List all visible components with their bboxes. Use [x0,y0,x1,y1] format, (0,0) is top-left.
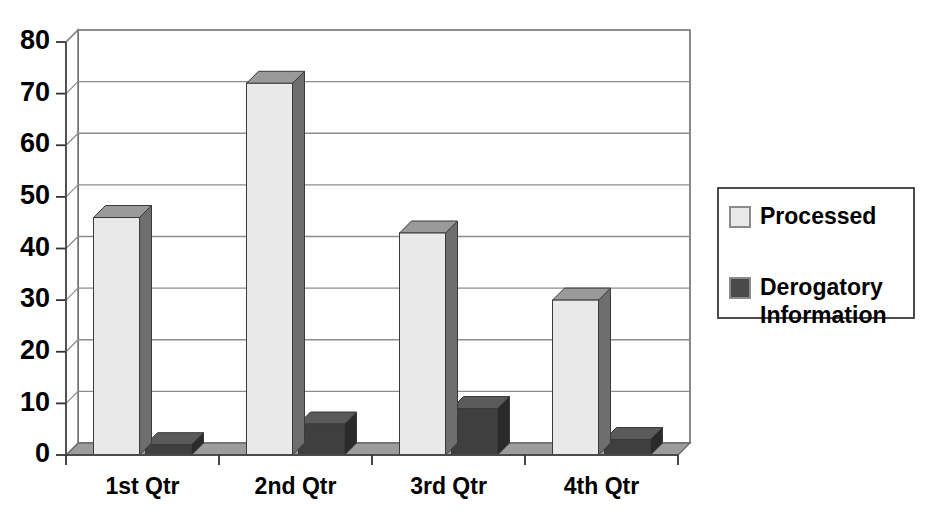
bar-processed-1 [247,71,305,455]
bar-chart: 80706050403020100 1st Qtr2nd Qtr3rd Qtr4… [0,0,928,526]
bar-derogatory-0 [146,433,204,455]
bar-processed-3-side [599,288,611,455]
bar-derogatory-1-front [299,424,345,455]
x-category-label: 3rd Qtr [410,473,487,499]
x-category-label: 2nd Qtr [255,473,337,499]
x-category-label: 4th Qtr [564,473,639,499]
y-tick-label: 0 [35,438,50,468]
bar-derogatory-2 [452,397,510,455]
legend-swatch-derogatory [730,278,750,298]
x-axis: 1st Qtr2nd Qtr3rd Qtr4th Qtr [66,455,678,499]
y-tick-label: 80 [20,25,50,55]
bar-processed-2-front [400,233,446,455]
bar-derogatory-0-front [146,445,192,455]
legend-label-derogatory: Derogatory [760,274,883,300]
y-tick-label: 30 [20,283,50,313]
y-tick-label: 10 [20,387,50,417]
bar-derogatory-2-front [452,409,498,455]
bar-derogatory-3-front [605,440,651,455]
bar-processed-1-side [293,71,305,455]
bar-processed-2 [400,221,458,455]
legend-label-derogatory-line2: Information [760,302,887,328]
bar-derogatory-1 [299,412,357,455]
y-tick-label: 20 [20,335,50,365]
chart-canvas: 80706050403020100 1st Qtr2nd Qtr3rd Qtr4… [0,0,928,526]
y-tick-label: 60 [20,128,50,158]
y-tick-label: 40 [20,232,50,262]
x-category-label: 1st Qtr [105,473,179,499]
bar-processed-0-side [140,206,152,455]
legend: Processed Derogatory Information [718,188,914,328]
bar-derogatory-3 [605,428,663,455]
y-tick-label: 50 [20,180,50,210]
bar-processed-0-front [94,218,140,455]
bar-processed-3 [553,288,611,455]
y-tick-label: 70 [20,77,50,107]
legend-swatch-processed [730,207,750,227]
bar-processed-3-front [553,300,599,455]
bar-processed-0 [94,206,152,455]
legend-label-processed: Processed [760,203,876,229]
bar-processed-2-side [446,221,458,455]
bar-processed-1-front [247,83,293,455]
